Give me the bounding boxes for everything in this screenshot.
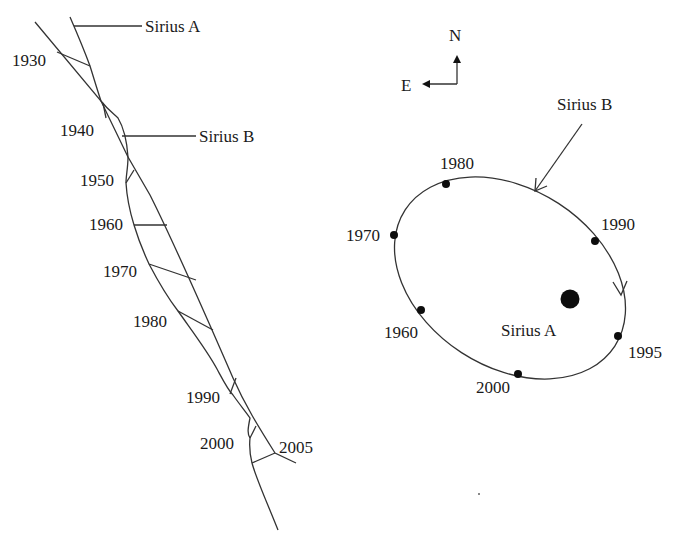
year-label-2000: 2000 (200, 434, 234, 453)
sirius-b-label: Sirius B (199, 127, 254, 146)
year-label-1960: 1960 (89, 215, 123, 234)
sirius-a-path (35, 22, 296, 463)
compass-east-label: E (401, 76, 411, 95)
speck (478, 493, 480, 495)
year-label-1990: 1990 (186, 388, 220, 407)
orbit-label-1980: 1980 (440, 154, 474, 173)
orbit-dot-1970 (390, 231, 398, 239)
sirius-binary-diagram: Sirius A Sirius B 1930 1940 1950 1960 19… (0, 0, 680, 550)
orbit-label-1970: 1970 (346, 226, 380, 245)
year-label-2005: 2005 (279, 438, 313, 457)
year-label-1950: 1950 (80, 171, 114, 190)
compass-north-label: N (449, 26, 461, 45)
year-label-1980: 1980 (133, 312, 167, 331)
year-ticks (57, 52, 275, 463)
sirius-a-label: Sirius A (145, 17, 201, 36)
year-label-1930: 1930 (12, 51, 46, 70)
orbit-label-1995: 1995 (628, 343, 662, 362)
sirius-b-pointer (535, 124, 582, 191)
orbit-dot-1990 (591, 237, 599, 245)
year-label-1970: 1970 (103, 262, 137, 281)
orbit-label-1960: 1960 (384, 323, 418, 342)
orbit-label-1990: 1990 (601, 215, 635, 234)
orbit-direction-arrow (613, 281, 627, 295)
year-label-1940: 1940 (60, 121, 94, 140)
orbit-panel: Sirius B Sirius A 1960 1970 1980 1990 19… (346, 95, 663, 421)
proper-motion-panel: Sirius A Sirius B 1930 1940 1950 1960 19… (12, 17, 313, 530)
sirius-b-orbit (357, 135, 664, 420)
orbit-sirius-a-label: Sirius A (501, 321, 557, 340)
orbit-dot-1995 (614, 332, 622, 340)
year-labels: 1930 1940 1950 1960 1970 1980 1990 2000 … (12, 51, 313, 457)
orbit-dot-1960 (417, 306, 425, 314)
sirius-a-star (561, 290, 580, 309)
compass: N E (401, 26, 461, 95)
sirius-b-path (70, 17, 278, 530)
orbit-sirius-b-label: Sirius B (557, 95, 612, 114)
orbit-dot-2000 (514, 370, 522, 378)
orbit-label-2000: 2000 (476, 378, 510, 397)
orbit-dot-1980 (442, 180, 450, 188)
